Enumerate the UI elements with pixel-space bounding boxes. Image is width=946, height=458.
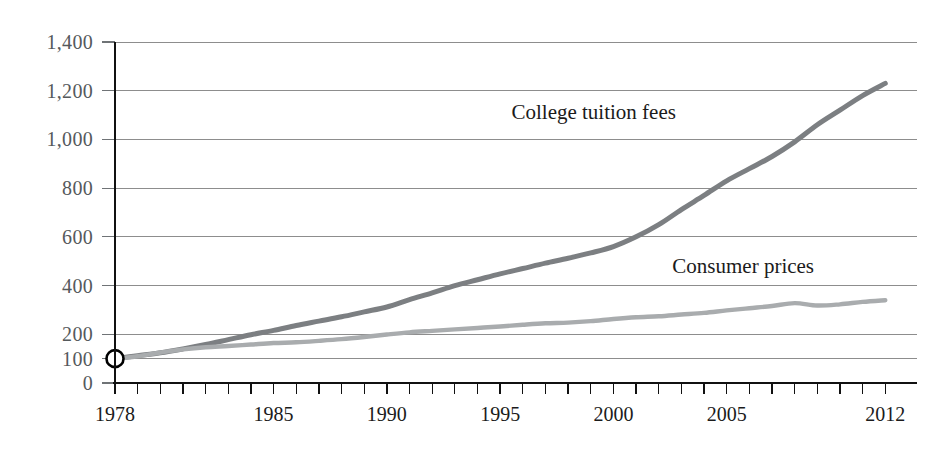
series-label-college-tuition-fees: College tuition fees: [511, 100, 675, 124]
y-tick-label: 600: [62, 226, 93, 248]
series-annotations: College tuition feesConsumer prices: [511, 100, 814, 278]
x-tick-label: 1985: [254, 403, 294, 425]
y-tick-label: 200: [62, 323, 93, 345]
series-line-college-tuition-fees: [115, 83, 885, 358]
x-axis-tick-labels: 1978198519901995200020052012: [95, 403, 905, 425]
gridlines: [115, 42, 917, 359]
chart-page: 01002004006008001,0001,2001,400 19781985…: [0, 0, 946, 458]
x-tick-label: 1990: [367, 403, 407, 425]
series-line-consumer-prices: [115, 300, 885, 358]
series-label-consumer-prices: Consumer prices: [672, 254, 814, 278]
y-tick-label: 1,000: [47, 128, 94, 150]
x-tick-label: 1995: [480, 403, 520, 425]
series-lines: [115, 83, 885, 358]
x-tick-label: 1978: [95, 403, 135, 425]
y-tick-label: 0: [83, 372, 93, 394]
y-axis-tick-labels: 01002004006008001,0001,2001,400: [47, 31, 94, 394]
y-tick-label: 100: [62, 348, 93, 370]
line-chart: 01002004006008001,0001,2001,400 19781985…: [0, 0, 946, 458]
x-tick-label: 2005: [707, 403, 747, 425]
y-tick-marks: [102, 42, 115, 383]
x-tick-label: 2000: [593, 403, 633, 425]
y-tick-label: 400: [62, 275, 93, 297]
y-tick-label: 800: [62, 177, 93, 199]
x-tick-label: 2012: [865, 403, 905, 425]
x-tick-marks: [115, 383, 885, 394]
y-tick-label: 1,400: [47, 31, 94, 53]
y-tick-label: 1,200: [47, 80, 94, 102]
